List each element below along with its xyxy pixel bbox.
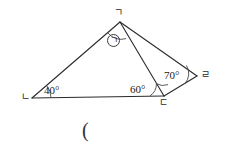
vertex-label-d: ㄷ	[159, 98, 168, 108]
angle-label-40: 40°	[44, 85, 59, 96]
angle-label-60: 60°	[130, 84, 145, 95]
vertex-label-g: ㄱ	[114, 8, 123, 18]
figure-canvas: ㄱ ㄴ ㄷ ㄹ 40° 60° 70° ㄱ (	[0, 0, 237, 149]
answer-parenthesis: (	[82, 120, 89, 140]
vertex-label-n: ㄴ	[21, 92, 30, 102]
circled-unknown-angle-marker: ㄱ	[107, 34, 120, 47]
angle-arc-d	[150, 84, 156, 96]
angle-label-70: 70°	[164, 70, 179, 81]
segment-n-d	[32, 96, 164, 98]
vertex-label-r: ㄹ	[201, 70, 210, 80]
segment-g-r	[120, 22, 197, 76]
